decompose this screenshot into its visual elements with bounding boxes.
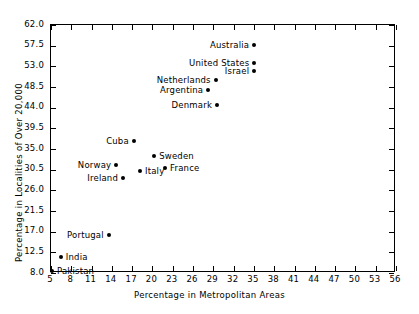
x-tick-top-38 bbox=[274, 25, 275, 30]
y-tick-right-62.0 bbox=[389, 25, 394, 26]
x-tick-top-53 bbox=[376, 25, 377, 30]
data-label-netherlands: Netherlands bbox=[157, 76, 211, 85]
y-tick-right-35.0 bbox=[389, 149, 394, 150]
x-tick-44 bbox=[315, 266, 316, 271]
x-tick-17 bbox=[132, 266, 133, 271]
y-tick-right-21.5 bbox=[389, 211, 394, 212]
x-tick-23 bbox=[173, 266, 174, 271]
data-label-india: India bbox=[66, 253, 88, 262]
y-tick-48.5 bbox=[51, 87, 56, 88]
y-tick-right-30.5 bbox=[389, 170, 394, 171]
y-tick-53.0 bbox=[51, 66, 56, 67]
x-tick-label-56: 56 bbox=[382, 274, 408, 284]
y-tick-label-8.0: 8.0 bbox=[14, 268, 44, 277]
x-tick-top-8 bbox=[71, 25, 72, 30]
data-label-italy: Italy bbox=[145, 167, 164, 176]
x-tick-top-32 bbox=[234, 25, 235, 30]
x-tick-26 bbox=[193, 266, 194, 271]
data-point-denmark[interactable] bbox=[215, 103, 219, 107]
data-label-australia: Australia bbox=[210, 41, 249, 50]
data-label-israel: Israel bbox=[225, 66, 249, 75]
x-tick-top-23 bbox=[173, 25, 174, 30]
data-label-sweden: Sweden bbox=[159, 152, 194, 161]
y-tick-21.5 bbox=[51, 211, 56, 212]
x-tick-29 bbox=[213, 266, 214, 271]
x-tick-20 bbox=[152, 266, 153, 271]
y-tick-17.0 bbox=[51, 232, 56, 233]
x-tick-top-50 bbox=[355, 25, 356, 30]
scatter-plot: 5811141720232629323538414447505356 8.012… bbox=[0, 0, 419, 314]
y-tick-label-62.0: 62.0 bbox=[14, 20, 44, 29]
x-tick-14 bbox=[112, 266, 113, 271]
x-tick-50 bbox=[355, 266, 356, 271]
y-tick-right-17.0 bbox=[389, 232, 394, 233]
data-label-norway: Norway bbox=[78, 160, 111, 169]
x-tick-35 bbox=[254, 266, 255, 271]
data-label-pakistan: Pakistan bbox=[57, 267, 94, 276]
data-label-portugal: Portugal bbox=[67, 231, 104, 240]
x-tick-top-41 bbox=[295, 25, 296, 30]
data-point-netherlands[interactable] bbox=[214, 78, 218, 82]
y-tick-26.0 bbox=[51, 190, 56, 191]
x-tick-top-26 bbox=[193, 25, 194, 30]
y-tick-57.5 bbox=[51, 46, 56, 47]
y-tick-62.0 bbox=[51, 25, 56, 26]
data-point-cuba[interactable] bbox=[132, 139, 136, 143]
x-tick-top-47 bbox=[335, 25, 336, 30]
y-tick-39.5 bbox=[51, 128, 56, 129]
y-tick-right-53.0 bbox=[389, 66, 394, 67]
y-tick-12.5 bbox=[51, 252, 56, 253]
y-tick-30.5 bbox=[51, 170, 56, 171]
y-tick-right-12.5 bbox=[389, 252, 394, 253]
data-point-norway[interactable] bbox=[114, 163, 118, 167]
x-tick-top-56 bbox=[396, 25, 397, 30]
data-label-ireland: Ireland bbox=[87, 174, 118, 183]
x-tick-top-20 bbox=[152, 25, 153, 30]
x-tick-47 bbox=[335, 266, 336, 271]
data-label-denmark: Denmark bbox=[172, 100, 212, 109]
x-tick-top-11 bbox=[92, 25, 93, 30]
x-tick-top-17 bbox=[132, 25, 133, 30]
y-tick-44.0 bbox=[51, 108, 56, 109]
y-tick-right-44.0 bbox=[389, 108, 394, 109]
x-tick-top-44 bbox=[315, 25, 316, 30]
y-tick-right-39.5 bbox=[389, 128, 394, 129]
x-tick-top-35 bbox=[254, 25, 255, 30]
x-tick-top-29 bbox=[213, 25, 214, 30]
data-label-cuba: Cuba bbox=[106, 136, 129, 145]
y-tick-35.0 bbox=[51, 149, 56, 150]
data-label-france: France bbox=[170, 164, 199, 173]
x-tick-top-14 bbox=[112, 25, 113, 30]
data-label-argentina: Argentina bbox=[160, 86, 203, 95]
y-tick-label-53.0: 53.0 bbox=[14, 61, 44, 70]
y-tick-right-48.5 bbox=[389, 87, 394, 88]
x-tick-38 bbox=[274, 266, 275, 271]
y-tick-right-57.5 bbox=[389, 46, 394, 47]
y-tick-label-57.5: 57.5 bbox=[14, 40, 44, 49]
x-tick-41 bbox=[295, 266, 296, 271]
x-axis-title: Percentage in Metropolitan Areas bbox=[0, 290, 419, 300]
y-tick-right-26.0 bbox=[389, 190, 394, 191]
x-tick-53 bbox=[376, 266, 377, 271]
y-axis-title: Percentage in Localities of Over 20,000 bbox=[14, 83, 24, 262]
x-tick-32 bbox=[234, 266, 235, 271]
x-tick-56 bbox=[396, 266, 397, 271]
data-label-united-states: United States bbox=[189, 59, 249, 68]
